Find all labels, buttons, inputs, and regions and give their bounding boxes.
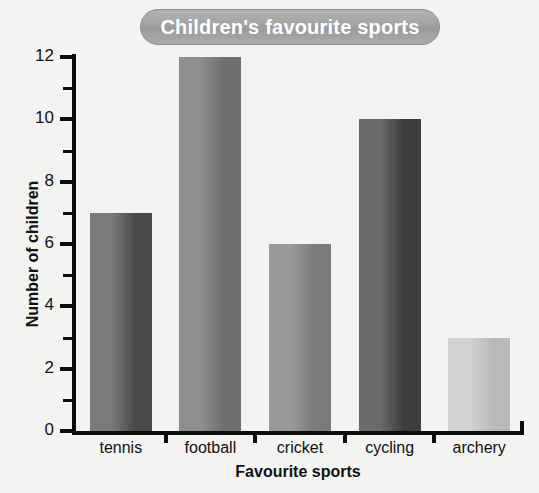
y-axis-tick-label: 10 (8, 108, 54, 128)
x-axis-end-cap (520, 421, 524, 435)
x-axis-category-label: football (166, 439, 256, 457)
x-axis-category-label: cycling (345, 439, 435, 457)
y-axis-tick-minor (63, 87, 72, 90)
bar (359, 119, 421, 431)
y-axis-tick-minor (63, 212, 72, 215)
y-axis-tick-label: 4 (8, 295, 54, 315)
x-axis-category-label: cricket (255, 439, 345, 457)
bar (448, 338, 510, 432)
y-axis-line (72, 54, 76, 435)
y-axis-tick-major (60, 242, 72, 246)
bar-chart-plot: Number of children Favourite sports 0246… (0, 0, 539, 493)
x-axis-category-label: archery (434, 439, 524, 457)
y-axis-tick-label: 0 (8, 420, 54, 440)
y-axis-tick-minor (63, 274, 72, 277)
y-axis-tick-minor (63, 399, 72, 402)
bar (269, 244, 331, 431)
y-axis-tick-label: 2 (8, 358, 54, 378)
y-axis-tick-major (60, 117, 72, 121)
x-axis-start-cap (72, 421, 76, 435)
x-axis-title: Favourite sports (72, 463, 524, 481)
y-axis-tick-minor (63, 150, 72, 153)
y-axis-tick-major (60, 367, 72, 371)
x-axis-line (72, 431, 524, 435)
bar (90, 213, 152, 431)
y-axis-tick-minor (63, 337, 72, 340)
x-axis-category-label: tennis (76, 439, 166, 457)
bar (179, 57, 241, 431)
y-axis-tick-label: 12 (8, 46, 54, 66)
y-axis-tick-major (60, 304, 72, 308)
y-axis-tick-major (60, 429, 72, 433)
y-axis-tick-label: 6 (8, 233, 54, 253)
y-axis-tick-label: 8 (8, 171, 54, 191)
y-axis-tick-major (60, 180, 72, 184)
y-axis-tick-major (60, 55, 72, 59)
